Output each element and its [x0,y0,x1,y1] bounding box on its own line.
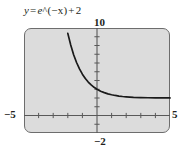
equation-constant: 2 [76,4,82,16]
y-axis-min-label: −2 [94,135,106,147]
equation-equals: = [29,4,37,16]
x-axis-max-label: 5 [172,108,178,120]
equation-caption: y=e^(−x)+2 [24,4,81,16]
x-axis-min-label: −5 [4,108,16,120]
exponential-curve [68,33,170,98]
equation-exponent: (−x) [48,4,68,16]
y-axis-max-label: 10 [94,16,105,28]
plot-canvas [24,28,170,133]
exponential-graph-figure: y=e^(−x)+2 −5 5 10 −2 [0,0,192,155]
equation-plus: + [67,4,75,16]
